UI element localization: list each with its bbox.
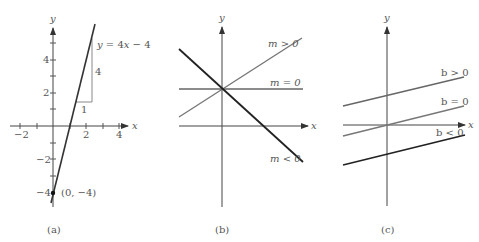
label-m-negative: m < 0 — [270, 153, 301, 164]
panel-b: x y m > 0 m = 0 m < 0 (b) — [179, 12, 317, 235]
label-b-zero: b = 0 — [441, 96, 469, 107]
point-label: (0, −4) — [61, 187, 96, 198]
y-axis-label: y — [383, 12, 390, 23]
y-tick-label: −2 — [36, 154, 51, 165]
x-axis-label: x — [311, 120, 317, 131]
line-y-4x-4 — [51, 24, 95, 203]
y-tick-label: 2 — [43, 87, 49, 98]
x-axis-label: x — [468, 119, 474, 130]
y-axis-label: y — [218, 12, 225, 23]
label-b-negative: b < 0 — [436, 127, 464, 138]
caption-c: (c) — [381, 224, 395, 235]
label-m-positive: m > 0 — [268, 38, 299, 49]
x-axis-label: x — [132, 120, 138, 131]
rise-label: 4 — [95, 66, 101, 77]
y-tick-label: −4 — [36, 187, 51, 198]
x-tick-label: −2 — [14, 129, 29, 140]
caption-b: (b) — [215, 224, 229, 235]
figure: x y −2 2 4 4 2 −2 −4 4 — [0, 0, 479, 242]
x-tick-label: 4 — [116, 129, 122, 140]
y-intercept-point — [51, 191, 55, 195]
run-label: 1 — [81, 104, 87, 115]
line-b-negative — [343, 135, 465, 165]
equation-label: y = 4x − 4 — [96, 39, 151, 50]
x-tick-label: 2 — [83, 129, 89, 140]
label-b-positive: b > 0 — [441, 67, 469, 78]
y-axis-label: y — [49, 13, 56, 24]
y-tick-label: 4 — [43, 54, 49, 65]
caption-a: (a) — [47, 224, 61, 235]
label-m-zero: m = 0 — [270, 77, 301, 88]
panel-a: x y −2 2 4 4 2 −2 −4 4 — [10, 13, 151, 235]
panel-c: x y b > 0 b = 0 b < 0 (c) — [343, 12, 474, 235]
